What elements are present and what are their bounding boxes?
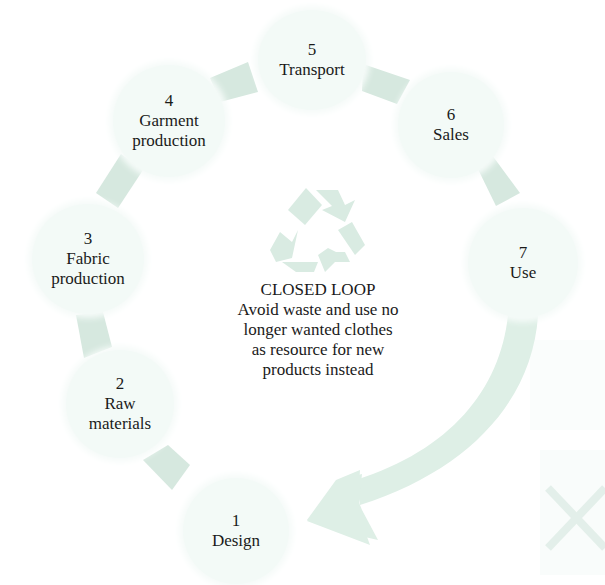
- center-description-line-4: products instead: [228, 360, 408, 380]
- center-description-line-2: longer wanted clothes: [228, 320, 408, 340]
- step-node-4: 4 Garment production: [113, 65, 225, 177]
- step-label-line-2: materials: [89, 414, 151, 434]
- step-node-7: 7 Use: [468, 208, 578, 318]
- step-node-2: 2 Raw materials: [66, 350, 174, 458]
- step-number: 6: [447, 105, 456, 125]
- connector-1-2: [143, 445, 190, 490]
- closed-loop-diagram: 1 Design 2 Raw materials 3 Fabric produc…: [0, 0, 605, 585]
- faint-x-icon: [530, 340, 605, 575]
- center-description: CLOSED LOOP Avoid waste and use no longe…: [228, 280, 408, 380]
- step-label: Sales: [433, 125, 469, 145]
- step-label-line-1: Fabric: [66, 249, 109, 269]
- step-node-3: 3 Fabric production: [32, 204, 144, 314]
- center-title: CLOSED LOOP: [228, 280, 408, 300]
- step-number: 7: [519, 243, 528, 263]
- step-node-6: 6 Sales: [398, 72, 504, 178]
- center-description-line-1: Avoid waste and use no: [228, 300, 408, 320]
- step-number: 3: [84, 229, 93, 249]
- center-description-line-3: as resource for new: [228, 340, 408, 360]
- step-label-line-2: production: [132, 131, 206, 151]
- step-label-line-1: Garment: [139, 111, 198, 131]
- step-node-5: 5 Transport: [258, 10, 366, 110]
- step-label-line-2: production: [51, 269, 125, 289]
- step-label: Design: [212, 531, 260, 551]
- step-label: Use: [510, 263, 536, 283]
- recycle-icon: [270, 188, 365, 272]
- step-number: 1: [232, 511, 241, 531]
- step-number: 2: [116, 374, 125, 394]
- step-number: 5: [308, 40, 317, 60]
- connector-5-6: [362, 64, 410, 104]
- step-label: Transport: [279, 60, 345, 80]
- step-number: 4: [165, 91, 174, 111]
- step-label-line-1: Raw: [104, 394, 135, 414]
- step-node-1: 1 Design: [183, 478, 289, 584]
